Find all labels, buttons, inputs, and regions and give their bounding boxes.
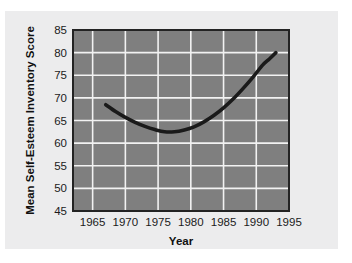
- x-tick-label-1985: 1985: [211, 216, 237, 228]
- plot-wrapper: 455055606570758085 196519701975198019851…: [5, 11, 338, 249]
- x-axis-tick-labels: 1965197019751980198519901995: [80, 216, 302, 228]
- x-tick-label-1980: 1980: [178, 216, 204, 228]
- y-tick-label-45: 45: [54, 205, 67, 217]
- x-axis-title: Year: [169, 235, 194, 247]
- y-tick-label-60: 60: [54, 137, 67, 149]
- x-tick-label-1995: 1995: [276, 216, 302, 228]
- y-axis-title: Mean Self-Esteem Inventory Score: [24, 26, 36, 215]
- figure-container: 455055606570758085 196519701975198019851…: [0, 0, 352, 263]
- y-tick-label-70: 70: [54, 92, 67, 104]
- y-tick-label-75: 75: [54, 69, 67, 81]
- x-tick-label-1965: 1965: [80, 216, 106, 228]
- y-tick-label-55: 55: [54, 160, 67, 172]
- line-chart: 455055606570758085 196519701975198019851…: [5, 11, 338, 249]
- y-axis-tick-labels: 455055606570758085: [54, 24, 67, 217]
- x-tick-label-1975: 1975: [145, 216, 171, 228]
- x-tick-label-1990: 1990: [243, 216, 269, 228]
- y-tick-label-85: 85: [54, 24, 67, 36]
- y-tick-label-50: 50: [54, 182, 67, 194]
- x-tick-label-1970: 1970: [113, 216, 139, 228]
- chart-panel: 455055606570758085 196519701975198019851…: [5, 11, 338, 249]
- y-tick-label-65: 65: [54, 115, 67, 127]
- y-tick-label-80: 80: [54, 47, 67, 59]
